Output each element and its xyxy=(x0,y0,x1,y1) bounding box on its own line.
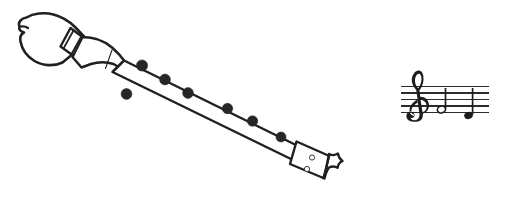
illustration-canvas: Soprano recorder with treble-clef staff xyxy=(0,0,520,205)
body-bulge-shape xyxy=(73,37,125,68)
recorder-illustration xyxy=(19,13,343,178)
finger-hole-3 xyxy=(160,74,171,85)
finger-hole-6 xyxy=(247,116,257,126)
treble-clef-icon xyxy=(406,70,429,121)
finger-hole-1 xyxy=(121,89,132,100)
finger-hole-2 xyxy=(136,60,147,71)
finger-hole-4 xyxy=(183,88,194,99)
finger-hole-7 xyxy=(276,132,286,142)
music-staff xyxy=(401,70,489,121)
body-joint-shape xyxy=(113,61,302,161)
note-1-half xyxy=(436,88,446,114)
foot-hole-lower xyxy=(304,166,309,171)
foot-hole-upper xyxy=(309,155,314,160)
finger-hole-5 xyxy=(222,103,232,113)
recorder-and-staff-figure xyxy=(0,0,520,205)
